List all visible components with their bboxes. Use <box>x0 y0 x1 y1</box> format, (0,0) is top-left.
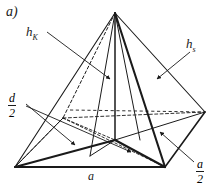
label-hs-subscript: s <box>193 45 196 54</box>
label-hk-subscript: K <box>33 33 38 42</box>
label-d2-numerator: d <box>8 92 16 105</box>
leader-hs <box>157 52 190 79</box>
label-half-base-edge: a 2 <box>196 158 204 185</box>
leader-hk <box>47 32 110 79</box>
label-height-body: hK <box>26 25 38 42</box>
label-half-diagonal: d 2 <box>8 92 16 119</box>
part-label: a) <box>6 5 18 19</box>
label-base-edge: a <box>88 170 94 182</box>
label-a2-denominator: 2 <box>196 173 204 186</box>
pyramid-figure: a) hK hs d 2 a 2 a <box>0 0 213 186</box>
label-a2-numerator: a <box>196 158 204 171</box>
label-height-slant: hs <box>186 37 196 54</box>
label-d2-denominator: 2 <box>8 107 16 120</box>
leader-a2 <box>160 132 194 162</box>
